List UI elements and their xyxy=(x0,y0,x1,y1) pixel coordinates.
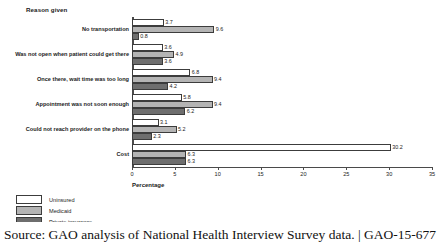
bar-group: Could not reach provider on the phone3.1… xyxy=(132,117,432,142)
legend-item-medicaid[interactable]: Medicaid xyxy=(16,205,92,216)
x-axis-tick-label: 35 xyxy=(429,171,435,177)
bar-row: 5.2 xyxy=(132,126,432,132)
category-label: No transportation xyxy=(1,26,129,33)
bar-group: Cost30.26.36.3 xyxy=(132,142,432,167)
bar-row: 2.3 xyxy=(132,133,432,139)
x-axis-tick-label: 30 xyxy=(386,171,392,177)
plot-area: No transportation3.79.60.8Was not open w… xyxy=(132,17,432,167)
bar-value-label: 3.1 xyxy=(160,119,168,126)
bar-value-label: 3.6 xyxy=(164,44,172,51)
bar-row: 6.3 xyxy=(132,151,432,157)
bar-row: 3.1 xyxy=(132,119,432,125)
legend-swatch-private xyxy=(16,217,42,222)
bar-value-label: 5.2 xyxy=(178,126,186,133)
x-axis-tick xyxy=(218,167,219,170)
x-axis: 05101520253035 xyxy=(132,167,432,169)
bar-row: 6.8 xyxy=(132,69,432,75)
bar-group: Was not open when patient could get ther… xyxy=(132,42,432,67)
x-axis-tick xyxy=(261,167,262,170)
bar-row: 9.4 xyxy=(132,101,432,107)
x-axis-tick xyxy=(132,167,133,170)
category-label: Cost xyxy=(1,151,129,158)
bar-uninsured[interactable] xyxy=(132,144,391,150)
bar-uninsured[interactable] xyxy=(132,19,164,25)
x-axis-tick xyxy=(175,167,176,170)
bar-private[interactable] xyxy=(132,108,185,114)
bar-row: 4.9 xyxy=(132,51,432,57)
bar-value-label: 6.8 xyxy=(192,69,200,76)
x-axis-tick xyxy=(303,167,304,170)
x-axis-tick-label: 20 xyxy=(300,171,306,177)
bar-value-label: 5.8 xyxy=(183,94,191,101)
bar-private[interactable] xyxy=(132,133,152,139)
bar-private[interactable] xyxy=(132,158,186,164)
bar-value-label: 9.4 xyxy=(214,101,222,108)
x-axis-tick-label: 5 xyxy=(173,171,176,177)
bar-group: Once there, wait time was too long6.89.4… xyxy=(132,67,432,92)
legend-swatch-uninsured xyxy=(16,195,42,204)
bar-value-label: 6.3 xyxy=(188,158,196,165)
bar-row: 4.2 xyxy=(132,83,432,89)
bar-group: No transportation3.79.60.8 xyxy=(132,17,432,42)
category-label: Appointment was not soon enough xyxy=(1,101,129,108)
category-label: Was not open when patient could get ther… xyxy=(1,51,129,58)
bar-value-label: 9.6 xyxy=(216,26,224,33)
bar-value-label: 9.4 xyxy=(214,76,222,83)
bar-uninsured[interactable] xyxy=(132,94,182,100)
bar-value-label: 3.6 xyxy=(164,58,172,65)
bar-uninsured[interactable] xyxy=(132,119,159,125)
bar-uninsured[interactable] xyxy=(132,44,163,50)
bar-value-label: 0.8 xyxy=(140,33,148,40)
legend-label: Medicaid xyxy=(49,208,71,214)
legend-label: Uninsured xyxy=(49,197,75,203)
y-axis-title: Reason given xyxy=(26,6,67,13)
bar-row: 6.3 xyxy=(132,158,432,164)
bar-row: 9.6 xyxy=(132,26,432,32)
bar-value-label: 30.2 xyxy=(392,144,403,151)
x-axis-tick xyxy=(346,167,347,170)
bar-row: 0.8 xyxy=(132,33,432,39)
x-axis-title: Percentage xyxy=(132,182,164,188)
bar-row: 30.2 xyxy=(132,144,432,150)
bar-uninsured[interactable] xyxy=(132,69,190,75)
x-axis-tick-label: 25 xyxy=(343,171,349,177)
bar-value-label: 4.2 xyxy=(170,83,178,90)
x-axis-tick-label: 15 xyxy=(257,171,263,177)
bar-group: Appointment was not soon enough5.89.46.2 xyxy=(132,92,432,117)
legend-item-uninsured[interactable]: Uninsured xyxy=(16,194,92,205)
category-label: Could not reach provider on the phone xyxy=(1,126,129,133)
bar-medicaid[interactable] xyxy=(132,101,213,107)
bar-private[interactable] xyxy=(132,83,168,89)
legend-label: Private insurance xyxy=(49,219,92,223)
bar-row: 3.7 xyxy=(132,19,432,25)
x-axis-tick xyxy=(432,167,433,170)
bar-private[interactable] xyxy=(132,58,163,64)
bar-medicaid[interactable] xyxy=(132,151,186,157)
x-axis-tick xyxy=(389,167,390,170)
x-axis-tick-label: 0 xyxy=(130,171,133,177)
bar-row: 3.6 xyxy=(132,58,432,64)
legend-swatch-medicaid xyxy=(16,206,42,215)
chart-legend: UninsuredMedicaidPrivate insurance xyxy=(16,194,92,222)
x-axis-line xyxy=(132,167,432,168)
category-label: Once there, wait time was too long xyxy=(1,76,129,83)
bar-row: 9.4 xyxy=(132,76,432,82)
bar-value-label: 6.2 xyxy=(187,108,195,115)
bar-value-label: 2.3 xyxy=(153,133,161,140)
x-axis-tick-label: 10 xyxy=(215,171,221,177)
bar-private[interactable] xyxy=(132,33,139,39)
figure-caption: Source: GAO analysis of National Health … xyxy=(0,224,448,249)
bar-value-label: 4.9 xyxy=(176,51,184,58)
bar-value-label: 3.7 xyxy=(165,19,173,26)
bar-row: 5.8 xyxy=(132,94,432,100)
chart-figure: Reason given No transportation3.79.60.8W… xyxy=(0,0,448,222)
bar-row: 6.2 xyxy=(132,108,432,114)
legend-item-private[interactable]: Private insurance xyxy=(16,216,92,222)
